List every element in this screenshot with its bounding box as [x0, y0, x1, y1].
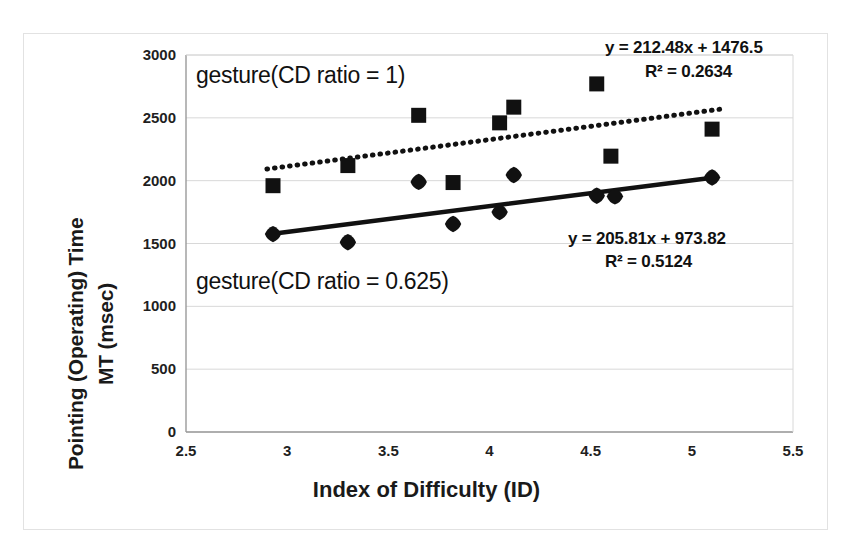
x-tick-label: 4: [460, 442, 520, 459]
data-point-square: [705, 122, 720, 137]
x-tick-label: 2.5: [156, 442, 216, 459]
equation-upper-r2: R² = 0.2634: [645, 62, 732, 82]
x-tick-label: 5: [662, 442, 722, 459]
x-axis-title: Index of Difficulty (ID): [0, 477, 853, 503]
data-point-square: [411, 108, 426, 123]
data-point-square: [340, 158, 355, 173]
data-point-square: [446, 175, 461, 190]
equation-upper-line1: y = 212.48x + 1476.5: [605, 38, 763, 58]
x-tick-label: 5.5: [763, 442, 823, 459]
data-point-square: [506, 100, 521, 115]
y-tick-label: 3000: [114, 46, 176, 63]
data-point-diamond: [265, 226, 281, 242]
y-tick-label: 1500: [114, 235, 176, 252]
chart-container: Pointing (Operating) Time MT (msec) 0500…: [0, 0, 853, 559]
data-point-diamond: [340, 234, 356, 250]
x-tick-label: 3.5: [358, 442, 418, 459]
annotation-upper-group-label: gesture(CD ratio = 1): [196, 62, 405, 89]
data-point-square: [266, 178, 281, 193]
annotation-lower-group-label: gesture(CD ratio = 0.625): [196, 268, 449, 295]
data-point-diamond: [445, 216, 461, 232]
data-point-square: [589, 76, 604, 91]
data-point-diamond: [704, 169, 720, 185]
x-tick-label: 4.5: [561, 442, 621, 459]
equation-lower-line1: y = 205.81x + 973.82: [568, 229, 726, 249]
y-tick-label: 2500: [114, 109, 176, 126]
y-tick-label: 2000: [114, 172, 176, 189]
data-point-diamond: [410, 174, 426, 190]
y-tick-label: 0: [114, 423, 176, 440]
data-point-square: [603, 149, 618, 164]
y-tick-label: 1000: [114, 297, 176, 314]
x-tick-label: 3: [257, 442, 317, 459]
data-point-square: [492, 115, 507, 130]
y-tick-label: 500: [114, 360, 176, 377]
trendline-lower: [273, 177, 716, 234]
equation-lower-r2: R² = 0.5124: [605, 252, 692, 272]
